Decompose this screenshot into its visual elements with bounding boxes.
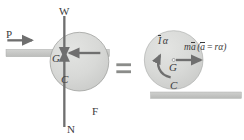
label-relation-equals: = — [207, 42, 213, 52]
label-paren-close: ) — [223, 42, 226, 52]
label-normal-force-N: N — [67, 124, 75, 135]
label-relation-acceleration-a: a — [200, 43, 205, 53]
label-mass-symbol-m: m — [184, 42, 191, 52]
label-weight-force-W: W — [59, 6, 69, 17]
label-mass-center-G-left: G — [52, 53, 60, 64]
label-inertia-alpha-term: Iα — [158, 36, 168, 46]
ground-surface-right — [151, 92, 242, 98]
label-acceleration-symbol-a: a — [191, 43, 196, 53]
label-contact-point-C-right: C — [170, 80, 177, 91]
label-friction-force-F: F — [92, 106, 98, 117]
label-mass-center-G-right: G — [169, 62, 177, 73]
equals-sign-group — [116, 63, 131, 73]
label-inertia-symbol-I: I — [158, 36, 161, 46]
label-ma-equation: ma(a=rα) — [184, 43, 226, 53]
physics-diagram-canvas: P W F N G C G C Iα ma(a=rα) — [0, 0, 244, 140]
diagram-vector-layer — [0, 0, 244, 140]
label-angular-acceleration-alpha: α — [163, 35, 168, 46]
label-contact-point-C-left: C — [61, 74, 68, 85]
label-applied-force-P: P — [6, 29, 12, 40]
